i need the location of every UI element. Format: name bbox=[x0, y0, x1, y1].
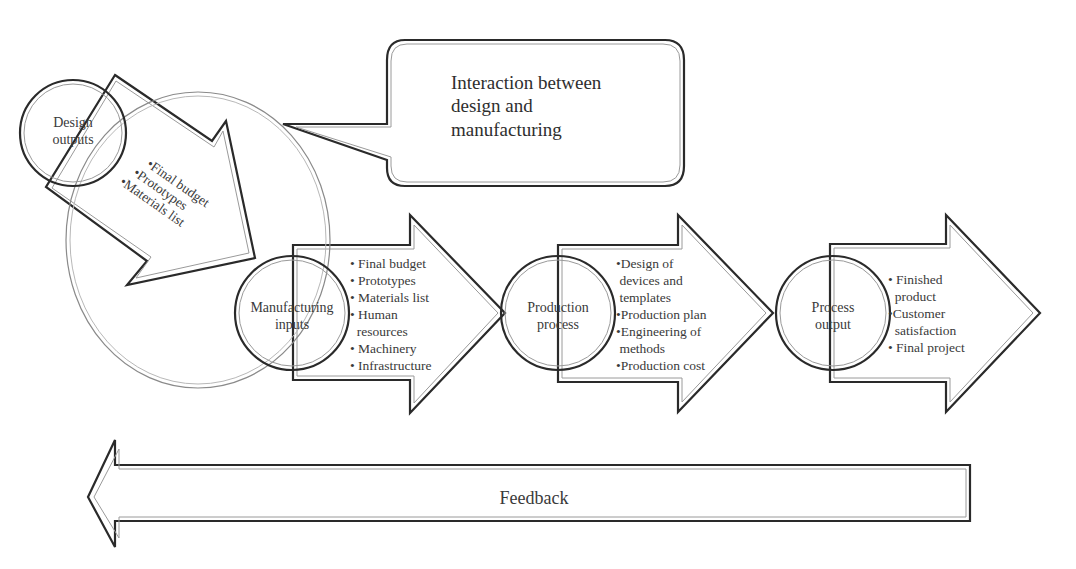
svg-text:product: product bbox=[888, 289, 936, 304]
svg-text:• Finished: • Finished bbox=[888, 272, 943, 287]
process-output-circle: Process output bbox=[776, 256, 890, 370]
svg-text:templates: templates bbox=[616, 290, 671, 305]
svg-text:Production: Production bbox=[527, 300, 588, 315]
svg-text:Design: Design bbox=[53, 115, 93, 130]
svg-text:resources: resources bbox=[350, 324, 408, 339]
svg-text:Interaction between: Interaction between bbox=[451, 72, 602, 93]
svg-text:Process: Process bbox=[812, 300, 855, 315]
design-manufacturing-diagram: Feedback •Final budget •Prototypes •Mate… bbox=[0, 0, 1076, 569]
svg-text:outputs: outputs bbox=[52, 132, 93, 147]
manufacturing-inputs-circle: Manufacturing inputs bbox=[235, 256, 349, 370]
svg-text:process: process bbox=[537, 317, 579, 332]
svg-text:design and: design and bbox=[451, 95, 533, 116]
svg-text:• Human: • Human bbox=[350, 307, 398, 322]
svg-text:•Production plan: •Production plan bbox=[616, 307, 707, 322]
svg-text:•Production cost: •Production cost bbox=[616, 358, 705, 373]
feedback-label: Feedback bbox=[500, 488, 569, 508]
svg-text:manufacturing: manufacturing bbox=[451, 119, 562, 140]
feedback-arrow: Feedback bbox=[88, 440, 970, 547]
svg-text:• Final budget: • Final budget bbox=[350, 256, 426, 271]
svg-text:•Design of: •Design of bbox=[616, 256, 674, 271]
svg-text:Manufacturing: Manufacturing bbox=[250, 300, 333, 315]
svg-text:• Machinery: • Machinery bbox=[350, 341, 417, 356]
interaction-callout: Interaction between design and manufactu… bbox=[283, 40, 684, 186]
svg-text:• Infrastructure: • Infrastructure bbox=[350, 358, 432, 373]
svg-text:methods: methods bbox=[616, 341, 665, 356]
svg-text:•Engineering of: •Engineering of bbox=[616, 324, 702, 339]
svg-text:• Final project: • Final project bbox=[888, 340, 965, 355]
svg-text:•Customer: •Customer bbox=[888, 306, 946, 321]
svg-text:devices and: devices and bbox=[616, 273, 683, 288]
svg-text:inputs: inputs bbox=[275, 317, 309, 332]
svg-text:output: output bbox=[815, 317, 851, 332]
svg-text:• Materials list: • Materials list bbox=[350, 290, 429, 305]
svg-text:• Prototypes: • Prototypes bbox=[350, 273, 416, 288]
svg-text:satisfaction: satisfaction bbox=[888, 323, 956, 338]
production-process-circle: Production process bbox=[501, 256, 615, 370]
design-outputs-circle: Design outputs bbox=[20, 80, 126, 186]
